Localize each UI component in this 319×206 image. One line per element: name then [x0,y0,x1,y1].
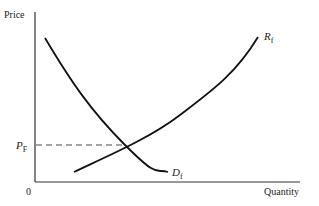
y-axis-title: Price [4,9,25,20]
supply-curve [74,37,258,172]
supply-curve-label: Rf [263,30,274,45]
demand-curve-label: Df [171,166,183,181]
origin-label: 0 [26,186,31,197]
price-level-label: PF [15,139,28,154]
demand-curve [45,38,168,172]
supply-demand-chart: Price Quantity 0 PF Df Rf [0,0,319,206]
x-axis-title: Quantity [264,186,299,197]
